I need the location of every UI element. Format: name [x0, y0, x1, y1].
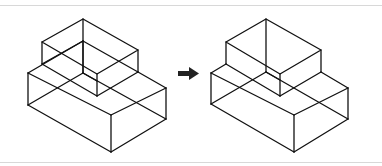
right-upper-box	[226, 19, 321, 96]
left-figure-before	[28, 19, 166, 152]
diagram-canvas	[0, 0, 382, 166]
right-arrow-icon	[178, 67, 199, 80]
right-figure-after	[211, 19, 348, 152]
left-upper-box	[42, 19, 138, 96]
